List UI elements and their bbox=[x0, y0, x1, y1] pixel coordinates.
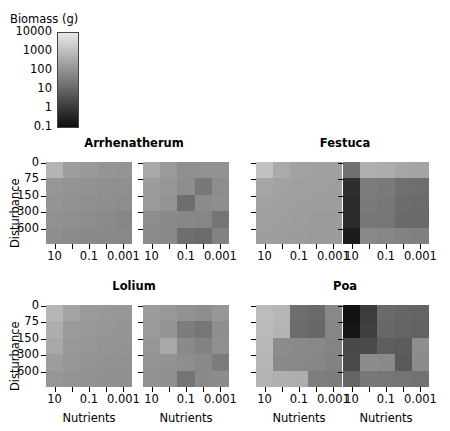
y-axis-tick bbox=[251, 372, 256, 373]
heatmap-cell bbox=[80, 195, 97, 211]
heatmap-cell bbox=[273, 354, 290, 370]
heatmap-cell bbox=[360, 338, 377, 354]
heatmap-cell bbox=[343, 354, 360, 370]
heatmap-cell bbox=[212, 371, 229, 387]
heatmap-cell bbox=[63, 305, 80, 321]
heatmap-cell bbox=[98, 228, 115, 244]
heatmap-cell bbox=[377, 305, 394, 321]
heatmap-cell bbox=[412, 338, 429, 354]
heatmap-panel: 075150300600100.10.001 bbox=[46, 162, 132, 244]
x-axis-tick-label: 0.1 bbox=[377, 394, 395, 406]
heatmap-cell bbox=[343, 178, 360, 194]
heatmap-cell bbox=[377, 338, 394, 354]
heatmap-cell bbox=[290, 371, 307, 387]
heatmap-grid bbox=[256, 162, 342, 244]
panel-row-top: Arrhenatherum Festuca Disturbance 075150… bbox=[0, 136, 450, 276]
x-axis-tick-label: 10 bbox=[257, 394, 272, 406]
y-axis-tick bbox=[41, 179, 46, 180]
heatmap-cell bbox=[377, 211, 394, 227]
heatmap-cell bbox=[325, 178, 342, 194]
heatmap-cell bbox=[256, 195, 273, 211]
x-axis-tick-label: 0.1 bbox=[290, 251, 308, 263]
x-axis-tick-label: 0.001 bbox=[404, 394, 437, 406]
heatmap-cell bbox=[115, 305, 132, 321]
heatmap-cell bbox=[46, 338, 63, 354]
y-axis-tick-label: 300 bbox=[17, 206, 39, 218]
y-axis-tick-label: 0 bbox=[32, 300, 39, 312]
heatmap-grid bbox=[343, 305, 429, 387]
heatmap-panel: 100.10.001 bbox=[343, 162, 429, 244]
biomass-colorbar-legend: Biomass (g) 1000010001001010.1 bbox=[0, 12, 120, 137]
x-axis-tick bbox=[72, 387, 73, 392]
species-title-arrhenatherum: Arrhenatherum bbox=[44, 136, 224, 150]
heatmap-cell bbox=[46, 195, 63, 211]
heatmap-cell bbox=[360, 162, 377, 178]
heatmap-cell bbox=[80, 354, 97, 370]
heatmap-cell bbox=[343, 228, 360, 244]
heatmap-panel: 100.10.001Nutrients bbox=[343, 305, 429, 387]
heatmap-cell bbox=[63, 354, 80, 370]
colorbar-tick-label: 1 bbox=[45, 102, 52, 114]
heatmap-cell bbox=[212, 228, 229, 244]
heatmap-grid bbox=[343, 162, 429, 244]
heatmap-cell bbox=[412, 162, 429, 178]
heatmap-cell bbox=[80, 305, 97, 321]
heatmap-cell bbox=[143, 305, 160, 321]
heatmap-cell bbox=[212, 338, 229, 354]
heatmap-cell bbox=[212, 321, 229, 337]
y-axis-tick bbox=[41, 322, 46, 323]
heatmap-cell bbox=[143, 321, 160, 337]
heatmap-cell bbox=[177, 371, 194, 387]
x-axis-tick bbox=[169, 244, 170, 249]
heatmap-cell bbox=[98, 211, 115, 227]
heatmap-cell bbox=[325, 228, 342, 244]
heatmap-cell bbox=[98, 338, 115, 354]
heatmap-cell bbox=[160, 371, 177, 387]
x-axis-tick-label: 0.001 bbox=[204, 251, 237, 263]
x-axis-label: Nutrients bbox=[272, 411, 325, 425]
heatmap-cell bbox=[412, 321, 429, 337]
heatmap-cell bbox=[395, 338, 412, 354]
heatmap-cell bbox=[115, 178, 132, 194]
heatmap-cell bbox=[195, 211, 212, 227]
heatmap-cell bbox=[80, 228, 97, 244]
x-axis-tick-label: 0.001 bbox=[107, 251, 140, 263]
x-axis-tick bbox=[169, 387, 170, 392]
y-axis-tick bbox=[41, 163, 46, 164]
y-axis-tick-label: 150 bbox=[17, 333, 39, 345]
heatmap-cell bbox=[325, 338, 342, 354]
heatmap-cell bbox=[212, 162, 229, 178]
y-axis-tick bbox=[338, 163, 343, 164]
heatmap-cell bbox=[177, 178, 194, 194]
heatmap-cell bbox=[412, 305, 429, 321]
heatmap-cell bbox=[63, 338, 80, 354]
y-axis-tick bbox=[338, 355, 343, 356]
heatmap-cell bbox=[212, 305, 229, 321]
heatmap-cell bbox=[46, 305, 63, 321]
species-title-festuca: Festuca bbox=[255, 136, 435, 150]
heatmap-cell bbox=[395, 371, 412, 387]
heatmap-grid bbox=[143, 162, 229, 244]
x-axis-tick bbox=[72, 244, 73, 249]
y-axis-tick bbox=[41, 196, 46, 197]
x-axis-tick-label: 0.1 bbox=[290, 394, 308, 406]
heatmap-grid bbox=[256, 305, 342, 387]
heatmap-cell bbox=[195, 305, 212, 321]
heatmap-cell bbox=[98, 195, 115, 211]
heatmap-cell bbox=[115, 354, 132, 370]
x-axis-tick-label: 0.001 bbox=[204, 394, 237, 406]
y-axis-tick bbox=[338, 372, 343, 373]
heatmap-cell bbox=[256, 162, 273, 178]
y-axis-tick bbox=[338, 339, 343, 340]
colorbar-tick-label: 10 bbox=[37, 83, 52, 95]
heatmap-cell bbox=[343, 321, 360, 337]
heatmap-cell bbox=[115, 195, 132, 211]
heatmap-cell bbox=[290, 162, 307, 178]
x-axis-tick-label: 10 bbox=[47, 394, 62, 406]
heatmap-cell bbox=[325, 162, 342, 178]
y-axis-tick bbox=[138, 212, 143, 213]
heatmap-cell bbox=[98, 178, 115, 194]
species-title-lolium: Lolium bbox=[44, 279, 224, 293]
colorbar-tick-label: 100 bbox=[30, 64, 52, 76]
heatmap-cell bbox=[160, 305, 177, 321]
